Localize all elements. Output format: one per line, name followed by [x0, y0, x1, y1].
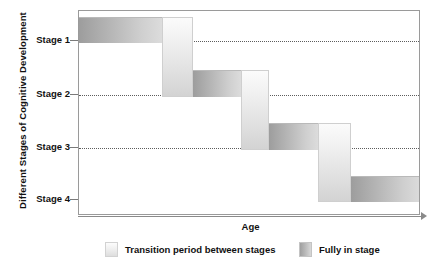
bar-full-stage-4 [351, 176, 420, 202]
y-tick-mark-stage-4 [70, 199, 78, 200]
y-tick-mark-stage-1 [70, 40, 78, 41]
legend-label-full: Fully in stage [319, 244, 380, 255]
legend-item-full: Fully in stage [299, 242, 380, 257]
bar-full-stage-1 [79, 17, 162, 43]
bar-transition-stage-1-to-2 [162, 17, 193, 97]
y-tick-mark-stage-2 [70, 94, 78, 95]
legend-item-transition: Transition period between stages [105, 242, 275, 257]
chart-legend: Transition period between stages Fully i… [0, 240, 431, 262]
y-tick-label-stage-1: Stage 1 [14, 34, 70, 45]
transition-swatch-icon [105, 242, 118, 257]
bar-full-stage-3 [269, 123, 318, 150]
bar-transition-stage-2-to-3 [241, 70, 269, 150]
y-tick-mark-stage-3 [70, 147, 78, 148]
y-tick-label-stage-4: Stage 4 [14, 193, 70, 204]
y-tick-label-group: Stage 1 Stage 2 Stage 3 Stage 4 [14, 0, 70, 230]
plot-area [78, 10, 420, 215]
bar-full-stage-2 [193, 70, 241, 97]
x-axis-line [78, 216, 423, 217]
x-axis-title: Age [78, 221, 423, 232]
bar-transition-stage-3-to-4 [318, 123, 351, 202]
y-tick-label-stage-2: Stage 2 [14, 88, 70, 99]
y-tick-label-stage-3: Stage 3 [14, 141, 70, 152]
x-axis-arrow-icon [421, 212, 427, 220]
cognitive-development-stage-chart: Different Stages of Cognitive Developmen… [0, 0, 431, 267]
full-swatch-icon [299, 242, 312, 257]
legend-label-transition: Transition period between stages [125, 244, 275, 255]
